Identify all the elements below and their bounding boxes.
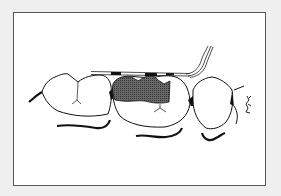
- tooth-left: [42, 74, 111, 116]
- periodontal-probe: [91, 46, 213, 78]
- gingiva-line-1: [57, 120, 110, 128]
- small-figure-mark: [246, 96, 251, 113]
- gingiva-line-2: [136, 128, 182, 137]
- dental-illustration: [0, 0, 281, 196]
- gingiva-left-line: [29, 92, 42, 102]
- tooth-right: [193, 77, 233, 129]
- gingiva-line-3: [202, 133, 225, 140]
- tooth-far-right-edge: [234, 86, 244, 124]
